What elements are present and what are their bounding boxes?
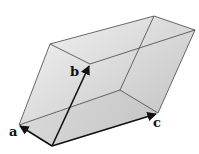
diagram-canvas: a b c — [0, 0, 199, 154]
label-a: a — [9, 124, 18, 139]
label-c: c — [153, 115, 161, 130]
label-b: b — [70, 64, 79, 79]
parallelepiped-diagram: a b c — [0, 0, 199, 154]
